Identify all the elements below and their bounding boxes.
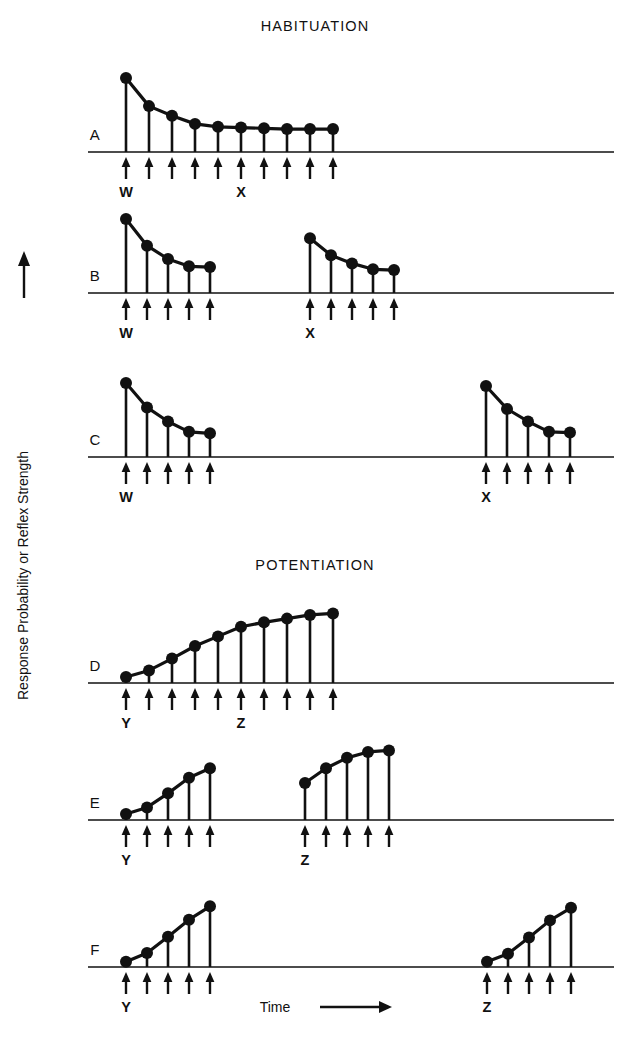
- stimulus-arrow-head: [143, 825, 152, 835]
- y-axis-arrow-head: [18, 251, 30, 266]
- response-point: [327, 123, 339, 135]
- stimulus-arrow-head: [364, 825, 373, 835]
- response-point: [143, 664, 155, 676]
- stimulus-arrow-head: [122, 825, 131, 835]
- response-point: [212, 121, 224, 133]
- stimulus-arrow-head: [566, 462, 575, 472]
- response-point: [183, 260, 195, 272]
- stimulus-arrow-head: [567, 972, 576, 982]
- response-point: [120, 377, 132, 389]
- response-point: [320, 762, 332, 774]
- response-point: [204, 900, 216, 912]
- response-point: [325, 249, 337, 261]
- response-connector: [126, 78, 333, 129]
- response-point: [141, 401, 153, 413]
- response-point: [189, 118, 201, 130]
- stimulus-group: [120, 213, 216, 320]
- response-point: [523, 931, 535, 943]
- stimulus-arrow-head: [145, 688, 154, 698]
- response-point: [162, 931, 174, 943]
- response-point: [564, 427, 576, 439]
- stimulus-arrow-head: [143, 298, 152, 308]
- stimulus-arrow-head: [369, 298, 378, 308]
- stimulus-arrow-head: [260, 157, 269, 167]
- stimulus-group: [304, 232, 400, 320]
- panel-a: AWX: [88, 72, 614, 200]
- stimulus-arrow-head: [206, 298, 215, 308]
- stimulus-marker-w: W: [119, 489, 133, 505]
- panel-letter-c: C: [89, 431, 100, 448]
- stimulus-arrow-head: [164, 462, 173, 472]
- stimulus-arrow-head: [122, 972, 131, 982]
- stimulus-group: [120, 900, 216, 994]
- response-point: [258, 122, 270, 134]
- response-point: [327, 607, 339, 619]
- stimulus-arrow-head: [546, 972, 555, 982]
- panel-e: EYZ: [88, 744, 614, 868]
- stimulus-arrow-head: [504, 972, 513, 982]
- stimulus-arrow-head: [214, 157, 223, 167]
- response-point: [141, 240, 153, 252]
- stimulus-marker-y: Y: [121, 999, 131, 1015]
- response-point: [212, 630, 224, 642]
- response-point: [162, 253, 174, 265]
- stimulus-arrow-head: [525, 972, 534, 982]
- response-point: [481, 956, 493, 968]
- stimulus-arrow-head: [185, 825, 194, 835]
- stimulus-arrow-head: [206, 972, 215, 982]
- stimulus-arrow-head: [237, 157, 246, 167]
- response-point: [346, 257, 358, 269]
- response-point: [501, 403, 513, 415]
- response-point: [565, 902, 577, 914]
- response-point: [204, 427, 216, 439]
- stimulus-group: [120, 377, 216, 484]
- stimulus-arrow-head: [524, 462, 533, 472]
- response-point: [299, 777, 311, 789]
- response-point: [281, 123, 293, 135]
- panel-letter-b: B: [90, 267, 100, 284]
- response-point: [166, 653, 178, 665]
- stimulus-arrow-head: [191, 157, 200, 167]
- panels-layer: AWXBWXCWXDYZEYZFYZ: [88, 72, 614, 1015]
- stimulus-arrow-head: [483, 972, 492, 982]
- stimulus-group: [120, 72, 339, 179]
- panel-letter-d: D: [89, 657, 100, 674]
- stimulus-marker-x: X: [236, 184, 246, 200]
- response-point: [388, 264, 400, 276]
- figure-root: HABITUATIONPOTENTIATION AWXBWXCWXDYZEYZF…: [0, 0, 630, 1044]
- section-titles: HABITUATIONPOTENTIATION: [255, 18, 374, 573]
- stimulus-arrow-head: [306, 298, 315, 308]
- stimulus-arrow-head: [385, 825, 394, 835]
- up-arrow-icon: [18, 251, 30, 298]
- x-axis-arrow-head: [379, 1001, 392, 1013]
- response-point: [204, 762, 216, 774]
- response-point: [204, 261, 216, 273]
- response-point: [183, 772, 195, 784]
- response-point: [522, 415, 534, 427]
- stimulus-arrow-head: [164, 298, 173, 308]
- stimulus-marker-w: W: [119, 184, 133, 200]
- stimulus-arrow-head: [206, 462, 215, 472]
- stimulus-group: [120, 607, 339, 710]
- response-point: [304, 232, 316, 244]
- response-point: [383, 744, 395, 756]
- stimulus-marker-w: W: [119, 325, 133, 341]
- response-point: [502, 948, 514, 960]
- stimulus-arrow-head: [237, 688, 246, 698]
- stimulus-arrow-head: [390, 298, 399, 308]
- axis-labels-layer: Response Probability or Reflex StrengthT…: [15, 251, 392, 1015]
- stimulus-marker-x: X: [305, 325, 315, 341]
- response-point: [143, 100, 155, 112]
- response-point: [120, 213, 132, 225]
- stimulus-marker-x: X: [481, 489, 491, 505]
- response-point: [480, 380, 492, 392]
- stimulus-arrow-head: [191, 688, 200, 698]
- stimulus-arrow-head: [545, 462, 554, 472]
- response-point: [189, 640, 201, 652]
- stimulus-arrow-head: [168, 157, 177, 167]
- stimulus-arrow-head: [283, 157, 292, 167]
- response-point: [235, 122, 247, 134]
- response-point: [183, 914, 195, 926]
- response-point: [162, 415, 174, 427]
- response-point: [235, 621, 247, 633]
